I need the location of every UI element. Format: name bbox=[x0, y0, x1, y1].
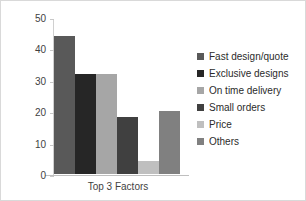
y-axis-tick: 0 bbox=[1, 176, 54, 177]
legend-swatch-icon bbox=[197, 138, 204, 145]
y-axis-tick-label: 30 bbox=[35, 75, 46, 88]
legend-item-label: Fast design/quote bbox=[209, 51, 289, 63]
y-axis-tick: 40 bbox=[1, 50, 54, 51]
legend-item-label: Small orders bbox=[209, 102, 265, 114]
legend-swatch-icon bbox=[197, 70, 204, 77]
y-axis-tick: 20 bbox=[1, 113, 54, 114]
legend-item-label: Exclusive designs bbox=[209, 68, 288, 80]
x-axis-line bbox=[45, 175, 189, 176]
legend-swatch-icon bbox=[197, 104, 204, 111]
bar bbox=[75, 74, 96, 174]
bar bbox=[117, 117, 138, 174]
y-axis-tick-mark bbox=[50, 176, 54, 177]
bar-series-group bbox=[54, 17, 180, 174]
y-axis-tick-label: 20 bbox=[35, 106, 46, 119]
legend-item-label: Price bbox=[209, 119, 232, 131]
legend-item: On time delivery bbox=[197, 82, 305, 99]
legend-item-label: On time delivery bbox=[209, 85, 281, 97]
y-axis-tick: 10 bbox=[1, 145, 54, 146]
bar bbox=[96, 74, 117, 174]
legend-swatch-icon bbox=[197, 53, 204, 60]
legend-item: Exclusive designs bbox=[197, 65, 305, 82]
legend-swatch-icon bbox=[197, 87, 204, 94]
y-axis-tick-label: 50 bbox=[35, 12, 46, 25]
legend-item: Others bbox=[197, 133, 305, 150]
bar bbox=[159, 111, 180, 174]
legend-item: Price bbox=[197, 116, 305, 133]
y-axis-tick-label: 10 bbox=[35, 138, 46, 151]
chart-legend: Fast design/quoteExclusive designsOn tim… bbox=[197, 48, 305, 150]
bar bbox=[138, 161, 159, 174]
y-axis-tick: 50 bbox=[1, 19, 54, 20]
x-axis-label: Top 3 Factors bbox=[45, 181, 191, 192]
bar bbox=[54, 36, 75, 174]
y-axis-tick-label: 40 bbox=[35, 43, 46, 56]
bar-chart-figure: 50403020100 Top 3 Factors Fast design/qu… bbox=[0, 0, 306, 201]
legend-item: Fast design/quote bbox=[197, 48, 305, 65]
legend-swatch-icon bbox=[197, 121, 204, 128]
y-axis-tick: 30 bbox=[1, 82, 54, 83]
legend-item-label: Others bbox=[209, 136, 239, 148]
legend-item: Small orders bbox=[197, 99, 305, 116]
